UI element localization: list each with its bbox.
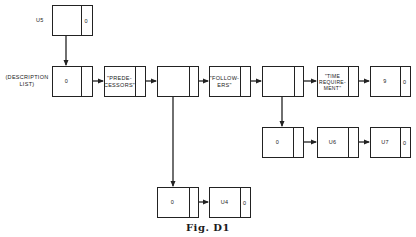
text-line: REQUIRE-	[319, 79, 346, 85]
node-predecessor-list	[157, 66, 199, 97]
node-pointer-field	[80, 67, 92, 96]
text-line: ERS"	[210, 82, 239, 89]
node-main-field: 0	[53, 67, 80, 96]
node-main-field: 0	[158, 188, 187, 217]
node-time-requirement: "TIME REQUIRE- MENT"	[317, 66, 359, 97]
node-pointer-field: 0	[399, 128, 410, 157]
node-main-field	[53, 6, 80, 35]
label-line: LIST)	[3, 81, 51, 88]
node-follower-head: 0	[262, 127, 304, 158]
node-u7: U7 0	[370, 127, 411, 158]
node-predecessors: "PREDE- CESSORS"	[104, 66, 146, 97]
figure-caption: Fig. D1	[0, 222, 416, 233]
node-u6: U6	[317, 127, 359, 158]
node-u5: 0	[52, 5, 93, 36]
node-main-field: U7	[371, 128, 399, 157]
label-line: (DESCRIPTION	[3, 74, 51, 81]
text-line: MENT"	[319, 85, 346, 91]
text-line: "PREDE-	[104, 75, 135, 82]
u5-label: U5	[36, 17, 44, 24]
node-main-field: "FOLLOW- ERS"	[210, 67, 239, 96]
node-u4: U4 0	[209, 187, 251, 218]
description-list-label: (DESCRIPTION LIST)	[3, 74, 51, 88]
node-pointer-field: 0	[80, 6, 92, 35]
node-pointer-field: 0	[399, 67, 410, 96]
node-main-field: "PREDE- CESSORS"	[105, 67, 134, 96]
node-followers: "FOLLOW- ERS"	[209, 66, 251, 97]
node-description-head: 0	[52, 66, 93, 97]
node-main-field: 0	[263, 128, 292, 157]
node-main-field: 9	[371, 67, 399, 96]
text-line: CESSORS"	[104, 82, 135, 89]
node-follower-list	[262, 66, 304, 97]
node-main-field: U6	[318, 128, 347, 157]
text-line: "FOLLOW-	[210, 75, 239, 82]
node-predecessor-head: 0	[157, 187, 199, 218]
node-pointer-field: 0	[239, 188, 250, 217]
node-main-field: U4	[210, 188, 239, 217]
node-time-value: 9 0	[370, 66, 411, 97]
node-main-field: "TIME REQUIRE- MENT"	[318, 67, 347, 96]
